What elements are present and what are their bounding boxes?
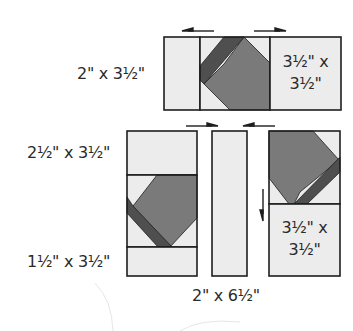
pressing-arrow-right-icon	[254, 28, 286, 31]
pressing-arrow-left-icon	[182, 28, 214, 31]
pressing-arrow-down-icon	[260, 189, 263, 221]
quilt-block-assembly-diagram: 2" x 3½" 3½" x 3½" 2½" x 3½" 1½" x 3½" 3…	[0, 0, 353, 331]
middle-strip	[212, 131, 247, 276]
left-bottom-rect	[127, 247, 197, 276]
top-left-strip-label: 2" x 3½"	[77, 66, 145, 82]
label-line-1: 3½" x	[270, 51, 341, 73]
top-right-square-label: 3½" x 3½"	[270, 51, 341, 95]
diagram-svg	[0, 0, 353, 331]
left-top-rect	[127, 131, 197, 175]
left-top-rect-label: 2½" x 3½"	[27, 145, 110, 161]
pressing-arrow-left-icon	[243, 123, 275, 126]
left-bottom-rect-label: 1½" x 3½"	[27, 254, 110, 270]
left-column	[127, 131, 197, 276]
pressing-arrow-right-icon	[186, 123, 218, 126]
right-top-block	[269, 131, 340, 204]
right-bottom-square-label: 3½" x 3½"	[269, 217, 340, 261]
middle-strip-label: 2" x 6½"	[192, 288, 260, 304]
left-middle-block	[127, 175, 197, 247]
top-center-block	[200, 37, 270, 110]
label-line-1: 3½" x	[269, 217, 340, 239]
top-left-strip	[164, 37, 200, 110]
label-line-2: 3½"	[270, 73, 341, 95]
label-line-2: 3½"	[269, 239, 340, 261]
